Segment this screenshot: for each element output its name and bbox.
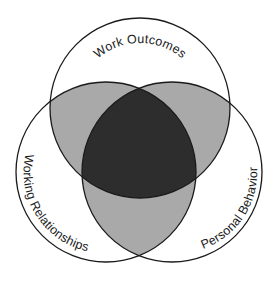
- venn-diagram: Work Outcomes Working Relationships Pers…: [0, 0, 279, 295]
